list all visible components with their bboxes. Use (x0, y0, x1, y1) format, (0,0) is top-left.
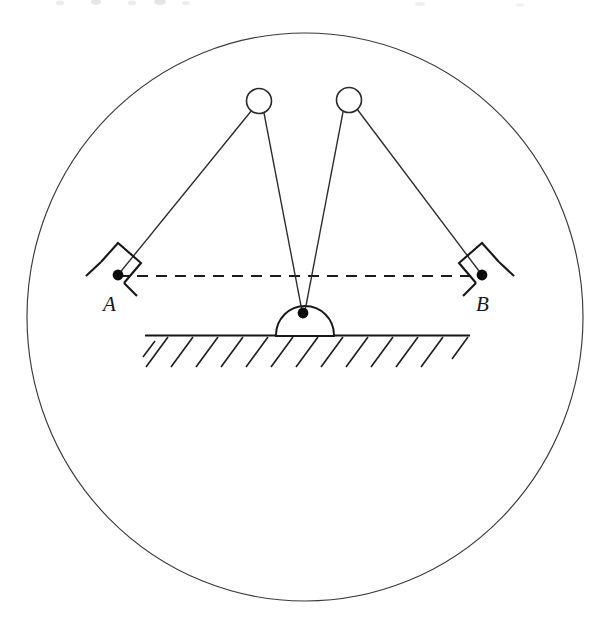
right-pulley (337, 88, 362, 113)
left-pulley (247, 89, 272, 114)
ground-hatching (143, 337, 468, 367)
label-a: A (101, 292, 116, 316)
label-b: B (476, 292, 489, 316)
anchor-point-b (477, 270, 488, 281)
anchor-bracket-b (459, 243, 514, 296)
anchor-bracket-a (86, 243, 141, 296)
string-group (118, 109, 482, 311)
string-a-to-left-pulley (118, 110, 252, 275)
figure-root: A B (0, 0, 597, 626)
physics-diagram: A B (0, 0, 597, 626)
anchor-point-a (113, 270, 124, 281)
pivot-point (298, 308, 309, 319)
scan-artifact-group (56, 0, 524, 7)
string-left-pulley-to-pivot (264, 113, 302, 311)
string-b-to-right-pulley (357, 109, 482, 275)
string-right-pulley-to-pivot (305, 112, 343, 311)
